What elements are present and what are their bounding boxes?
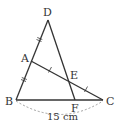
point-label-E: E <box>70 69 78 82</box>
point-label-B: B <box>5 95 13 108</box>
triangle-figure: D A B C E F 15 cm <box>0 0 123 132</box>
point-label-D: D <box>43 6 52 19</box>
segment-DF <box>48 20 75 100</box>
dimension-label-BC: 15 cm <box>47 111 79 122</box>
segment-AC <box>31 61 103 100</box>
point-label-A: A <box>20 52 30 65</box>
point-label-C: C <box>106 95 114 108</box>
